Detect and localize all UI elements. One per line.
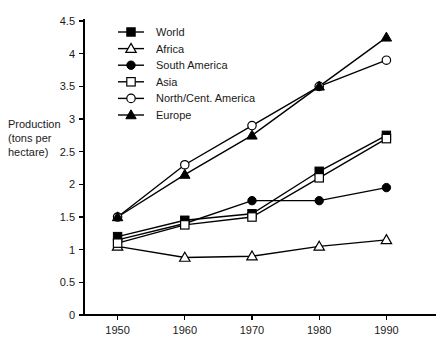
legend-marker-icon (127, 78, 135, 86)
marker-africa (381, 235, 391, 244)
marker-north-cent-america (248, 121, 256, 129)
marker-south-america (315, 196, 323, 204)
marker-asia (315, 174, 323, 182)
x-tick-label: 1970 (240, 324, 264, 336)
legend-label: North/Cent. America (156, 92, 256, 104)
legend-label: Europe (156, 109, 191, 121)
chart-canvas: 00.511.522.533.544.519501960197019801990… (0, 0, 440, 349)
legend-marker-icon (126, 110, 136, 119)
legend-marker-icon (127, 61, 135, 69)
y-axis-title-line: Production (8, 118, 61, 130)
x-tick-label: 1950 (105, 324, 129, 336)
y-tick-label: 2.5 (60, 146, 75, 158)
legend-label: World (156, 26, 185, 38)
marker-asia (113, 239, 121, 247)
y-tick-label: 2 (69, 178, 75, 190)
y-axis-title-line: hectare) (8, 146, 48, 158)
y-tick-label: 0.5 (60, 276, 75, 288)
marker-north-cent-america (382, 56, 390, 64)
legend-label: Asia (156, 76, 178, 88)
y-tick-label: 1 (69, 244, 75, 256)
marker-europe (180, 169, 190, 178)
legend-marker-icon (127, 94, 135, 102)
legend-label: South America (156, 59, 228, 71)
marker-europe (247, 130, 257, 139)
x-tick-label: 1990 (374, 324, 398, 336)
y-tick-label: 1.5 (60, 211, 75, 223)
y-tick-label: 0 (69, 309, 75, 321)
production-line-chart: 00.511.522.533.544.519501960197019801990… (0, 0, 440, 349)
y-tick-label: 3.5 (60, 80, 75, 92)
y-tick-label: 4.5 (60, 15, 75, 27)
marker-asia (248, 213, 256, 221)
x-tick-label: 1960 (173, 324, 197, 336)
y-tick-label: 4 (69, 48, 75, 60)
x-tick-label: 1980 (307, 324, 331, 336)
y-tick-label: 3 (69, 113, 75, 125)
marker-asia (181, 221, 189, 229)
legend-label: Africa (156, 43, 185, 55)
marker-south-america (248, 196, 256, 204)
marker-asia (382, 134, 390, 142)
marker-north-cent-america (181, 161, 189, 169)
legend-marker-icon (126, 43, 136, 52)
legend-marker-icon (127, 28, 135, 36)
y-axis-title-line: (tons per (8, 132, 52, 144)
marker-south-america (382, 183, 390, 191)
marker-europe (381, 32, 391, 41)
